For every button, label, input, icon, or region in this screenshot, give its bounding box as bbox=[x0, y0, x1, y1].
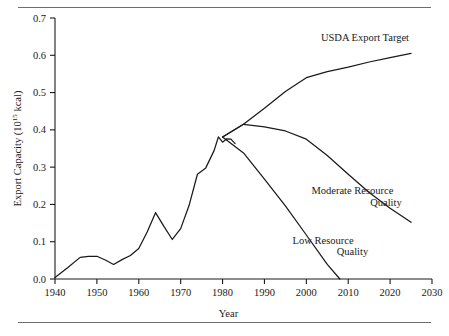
y-axis-title-main: Export Capacity (10 bbox=[12, 121, 24, 206]
x-axis-tick-label: 1990 bbox=[254, 287, 275, 298]
figure-container: 0.00.10.20.30.40.50.60.7 194019501960197… bbox=[0, 0, 449, 336]
y-axis-tick-label: 0.1 bbox=[33, 236, 46, 247]
y-axis-tick-label: 0.5 bbox=[33, 87, 46, 98]
x-axis-tick-label: 2020 bbox=[380, 287, 401, 298]
y-axis-tick-label: 0.4 bbox=[33, 124, 47, 135]
low-resource-quality-label-line2: Quality bbox=[337, 246, 369, 257]
y-axis-tick-label: 0.0 bbox=[33, 274, 46, 285]
top-horizontal-rule bbox=[18, 7, 431, 8]
annotation-group: USDA Export TargetModerate ResourceQuali… bbox=[293, 32, 410, 257]
y-axis-tick-label: 0.7 bbox=[33, 13, 46, 24]
y-axis: 0.00.10.20.30.40.50.60.7 bbox=[33, 13, 55, 285]
series-line-usda-export-target bbox=[223, 53, 412, 137]
export-capacity-line-chart: 0.00.10.20.30.40.50.60.7 194019501960197… bbox=[0, 0, 449, 336]
bottom-horizontal-rule bbox=[18, 322, 431, 323]
y-axis-tick-label: 0.3 bbox=[33, 162, 46, 173]
x-axis-tick-label: 2010 bbox=[338, 287, 359, 298]
x-axis: 1940195019601970198019902000201020202030 bbox=[45, 279, 443, 298]
moderate-resource-quality-label-line2: Quality bbox=[370, 197, 402, 208]
y-axis-tick-label: 0.6 bbox=[33, 50, 46, 61]
x-axis-title: Year bbox=[219, 308, 239, 319]
x-axis-tick-label: 2000 bbox=[296, 287, 317, 298]
moderate-resource-quality-label-line1: Moderate Resource bbox=[311, 185, 393, 196]
x-axis-tick-label: 1980 bbox=[212, 287, 233, 298]
series-line-moderate-resource-quality bbox=[223, 124, 412, 222]
series-line-historical bbox=[55, 137, 235, 278]
x-axis-tick-label: 2030 bbox=[422, 287, 443, 298]
series-line-low-resource-quality bbox=[223, 137, 340, 279]
y-axis-title-tail: kcal) bbox=[12, 90, 24, 114]
x-axis-tick-label: 1960 bbox=[128, 287, 149, 298]
x-axis-tick-label: 1940 bbox=[45, 287, 66, 298]
y-axis-title: Export Capacity (1015 kcal) bbox=[11, 90, 24, 206]
low-resource-quality-label-line1: Low Resource bbox=[293, 235, 354, 246]
x-axis-tick-label: 1970 bbox=[170, 287, 191, 298]
usda-export-target-label: USDA Export Target bbox=[321, 32, 409, 43]
x-axis-tick-label: 1950 bbox=[86, 287, 107, 298]
y-axis-tick-label: 0.2 bbox=[33, 199, 46, 210]
